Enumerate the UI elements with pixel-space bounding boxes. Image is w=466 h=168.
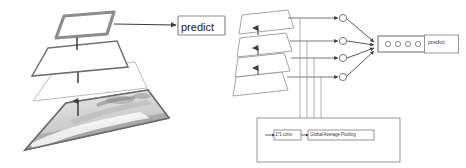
converge-line-1 xyxy=(347,19,374,42)
conv-box[interactable] xyxy=(274,130,301,140)
network-architecture-figure xyxy=(0,0,466,168)
feature-vector-circle-2 xyxy=(395,41,400,46)
feature-vector-circle-1 xyxy=(385,41,390,46)
feature-vector-circle-4 xyxy=(415,41,420,46)
node-circle-3 xyxy=(339,54,346,61)
predict-box-right[interactable] xyxy=(425,35,459,53)
feature-vector-circle-3 xyxy=(405,41,410,46)
converge-line-3 xyxy=(347,48,374,58)
input-image-plane xyxy=(25,90,170,156)
right-panel xyxy=(233,10,459,162)
right-feature-plane-1 xyxy=(239,10,294,34)
node-circle-1 xyxy=(339,14,346,21)
arrow-to-predict-left xyxy=(114,24,176,25)
node-circle-4 xyxy=(339,73,346,80)
left-panel xyxy=(25,12,225,156)
feature-plane-1-top xyxy=(56,12,114,38)
converge-line-2 xyxy=(347,41,374,45)
converge-line-4 xyxy=(347,51,374,76)
feature-vector-box xyxy=(378,36,426,52)
predict-box-left[interactable] xyxy=(178,16,225,35)
node-circle-2 xyxy=(339,37,346,44)
gap-box[interactable] xyxy=(308,130,374,140)
